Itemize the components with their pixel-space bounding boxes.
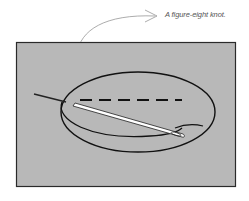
fabric-panel [17, 43, 236, 187]
figure-caption: A figure-eight knot. [165, 10, 226, 19]
knot-illustration [0, 0, 249, 201]
